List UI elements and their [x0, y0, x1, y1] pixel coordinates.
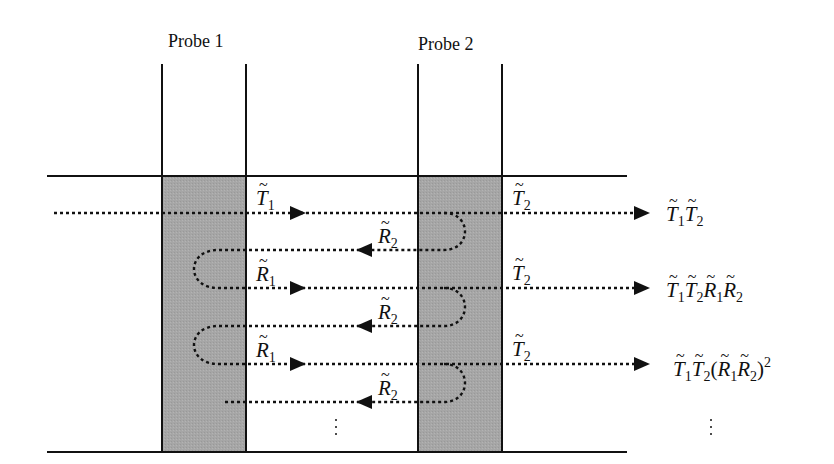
label-r1-row3: R1	[256, 340, 276, 365]
arrow-right-icon	[290, 357, 306, 371]
label-t2-row2: T2	[512, 263, 531, 288]
ray-paths	[54, 213, 636, 402]
diagram-canvas	[0, 0, 834, 464]
arrow-left-icon	[356, 395, 372, 409]
continuation-dots-center	[335, 419, 339, 440]
arrow-right-icon	[634, 357, 650, 371]
arrow-right-icon	[290, 281, 306, 295]
probe-1-region	[162, 176, 246, 452]
label-r2-row1: R2	[378, 226, 398, 251]
probe-1-label: Probe 1	[168, 32, 224, 50]
output-expression-2: T1T2R1R2	[666, 280, 743, 305]
label-r2-row2: R2	[378, 302, 398, 327]
arrow-left-icon	[356, 319, 372, 333]
probe-2-region	[418, 176, 502, 452]
label-r1-row2: R1	[256, 264, 276, 289]
arrow-right-icon	[634, 206, 650, 220]
label-t2-row1: T2	[512, 188, 531, 213]
arrow-right-icon	[634, 281, 650, 295]
output-expression-1: T1T2	[666, 204, 703, 229]
probe-2-label: Probe 2	[418, 35, 474, 53]
arrow-left-icon	[356, 243, 372, 257]
label-t1: T1	[256, 188, 275, 213]
label-t2-row3: T2	[512, 339, 531, 364]
label-r2-row3: R2	[378, 378, 398, 403]
output-expression-3: T1T2(R1R2)2	[673, 356, 771, 384]
arrow-right-icon	[290, 206, 306, 220]
continuation-dots-right	[710, 419, 714, 440]
